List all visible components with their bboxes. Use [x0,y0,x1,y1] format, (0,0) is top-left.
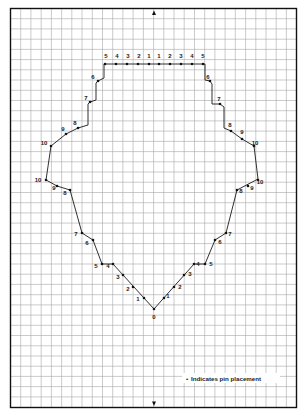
pin-marker [209,80,212,83]
pin-labels: 5432112345678910109876543210123456789101… [35,53,264,320]
arrow-up-icon [152,11,156,16]
pin-label: 3 [179,53,183,59]
pin-marker [214,239,217,242]
pin-marker [115,63,118,66]
pin-marker [236,189,239,192]
pin-label: 10 [257,179,264,185]
pin-marker [202,63,205,66]
pin-marker [65,133,68,136]
pin-label: 7 [84,95,88,101]
pin-marker [132,286,135,289]
graph-paper-grid [11,9,297,408]
pin-marker [204,263,207,266]
pin-markers [45,63,260,311]
pin-label: 8 [63,190,67,196]
pin-label: 7 [74,231,78,237]
pin-label: 1 [136,296,140,302]
pin-label: 9 [250,185,254,191]
pin-label: 7 [228,231,232,237]
pin-marker [153,308,156,311]
pin-label: 2 [168,53,172,59]
pin-marker [193,263,196,266]
pin-placement-diagram: 5432112345678910109876543210123456789101… [0,0,303,413]
pin-label: 2 [178,284,182,290]
pin-marker [81,232,84,235]
pin-marker [112,263,115,266]
pin-marker [56,185,59,188]
pin-marker [241,138,244,141]
pin-label: 1 [147,53,151,59]
pin-marker [158,63,161,66]
pin-label: 10 [41,140,48,146]
pin-marker [45,179,48,182]
pin-label: 7 [217,96,221,102]
pin-marker [219,103,222,106]
pin-marker [122,274,125,277]
pin-label: 2 [126,286,130,292]
pin-label: 8 [239,188,243,194]
pin-marker [89,101,92,104]
pin-label: 6 [218,239,222,245]
legend: • Indicates pin placement [182,373,280,383]
pin-marker [126,63,129,66]
pin-marker [137,63,140,66]
pin-label: 5 [104,53,108,59]
pin-label: 3 [126,53,130,59]
pin-marker [97,80,100,83]
pin-marker [191,63,194,66]
pin-label: 8 [228,122,232,128]
pin-label: 3 [116,274,120,280]
legend-text: Indicates pin placement [191,375,261,382]
pin-marker [77,127,80,130]
pin-marker [101,263,104,266]
pin-marker [169,63,172,66]
pin-label: 1 [157,53,161,59]
pin-label: 10 [35,177,42,183]
arrow-down-icon [152,402,156,407]
pin-marker [225,232,228,235]
pin-label: 6 [91,74,95,80]
pin-label: 10 [252,140,259,146]
pin-marker [163,297,166,300]
pin-marker [69,189,72,192]
pin-label: 6 [85,240,89,246]
pin-label: 2 [137,53,141,59]
pin-marker [247,185,250,188]
pin-label: 6 [206,74,210,80]
pin-marker [230,130,233,133]
pin-label: 9 [240,129,244,135]
pin-marker [104,63,107,66]
pin-marker [180,63,183,66]
pin-marker [143,297,146,300]
pin-marker [183,274,186,277]
pin-label: 4 [190,53,194,59]
pin-marker [92,239,95,242]
pin-label: 4 [115,53,119,59]
pin-marker [50,145,53,148]
legend-bullet: • [186,375,188,382]
pin-label: 1 [166,293,170,299]
pin-marker [173,286,176,289]
pin-marker [148,63,151,66]
